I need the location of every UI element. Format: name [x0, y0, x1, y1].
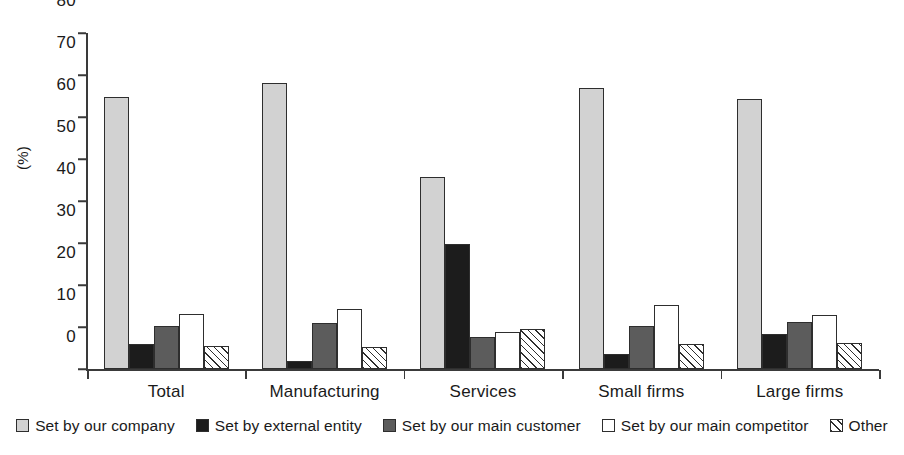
legend-label: Set by our company	[35, 418, 175, 434]
legend-swatch-icon	[16, 419, 29, 432]
bar-competitor	[337, 309, 362, 369]
legend-swatch-icon	[602, 419, 615, 432]
bar-external	[762, 334, 787, 369]
bar-company	[104, 97, 129, 369]
legend-swatch-icon	[196, 419, 209, 432]
bar-group	[721, 33, 879, 369]
legend-item-customer[interactable]: Set by our main customer	[383, 418, 581, 434]
legend-item-external[interactable]: Set by external entity	[196, 418, 362, 434]
bar-company	[262, 83, 287, 369]
bar-external	[604, 354, 629, 369]
bar-other	[837, 343, 862, 369]
bar-group-bars	[87, 33, 245, 369]
legend-label: Set by our main competitor	[621, 418, 809, 434]
bar-customer	[470, 337, 495, 369]
x-category-label: Total	[87, 382, 245, 402]
x-tick-mark	[404, 370, 406, 379]
bar-other	[362, 347, 387, 369]
x-tick-mark	[87, 370, 89, 379]
legend-swatch-icon	[830, 419, 843, 432]
y-tick-label: 0	[42, 328, 76, 345]
bar-company	[579, 88, 604, 369]
bar-external	[287, 361, 312, 369]
bar-customer	[154, 326, 179, 369]
plot-area	[87, 33, 879, 369]
bar-customer	[787, 322, 812, 369]
y-tick-label: 60	[42, 76, 76, 93]
y-tick-mark	[78, 158, 86, 160]
bar-group-bars	[245, 33, 403, 369]
bar-customer	[312, 323, 337, 369]
bar-other	[679, 344, 704, 369]
bar-external	[445, 244, 470, 369]
y-tick-label: 10	[42, 286, 76, 303]
bar-group	[562, 33, 720, 369]
bar-company	[737, 99, 762, 369]
y-tick-label: 70	[42, 34, 76, 51]
y-tick-label: 30	[42, 202, 76, 219]
bar-group-bars	[721, 33, 879, 369]
x-tick-mark	[245, 370, 247, 379]
y-tick-mark	[78, 368, 86, 370]
bar-competitor	[179, 314, 204, 369]
chart-legend: Set by our companySet by external entity…	[0, 418, 904, 434]
legend-label: Set by external entity	[215, 418, 362, 434]
x-category-label: Manufacturing	[245, 382, 403, 402]
bar-other	[520, 329, 545, 369]
bar-competitor	[495, 332, 520, 369]
bar-competitor	[812, 315, 837, 369]
legend-item-other[interactable]: Other	[830, 418, 888, 434]
y-tick-mark	[78, 242, 86, 244]
bar-competitor	[654, 305, 679, 369]
legend-label: Other	[849, 418, 888, 434]
bar-chart: (%) 01020304050607080 Set by our company…	[0, 0, 904, 455]
y-tick-label: 50	[42, 118, 76, 135]
x-axis-line	[86, 369, 879, 371]
y-tick-label: 20	[42, 244, 76, 261]
y-axis-tick-labels: 01020304050607080	[42, 0, 76, 455]
bar-group-bars	[562, 33, 720, 369]
bar-customer	[629, 326, 654, 369]
y-tick-mark	[78, 326, 86, 328]
y-tick-mark	[78, 32, 86, 34]
y-tick-mark	[78, 74, 86, 76]
bar-group	[87, 33, 245, 369]
x-category-label: Services	[404, 382, 562, 402]
bar-external	[129, 344, 154, 369]
y-tick-label: 40	[42, 160, 76, 177]
legend-label: Set by our main customer	[402, 418, 581, 434]
x-tick-mark	[721, 370, 723, 379]
bar-group-bars	[404, 33, 562, 369]
y-axis-title: (%)	[14, 146, 31, 170]
y-tick-label: 80	[42, 0, 76, 9]
bar-company	[420, 177, 445, 369]
legend-swatch-icon	[383, 419, 396, 432]
x-tick-mark	[562, 370, 564, 379]
x-category-label: Small firms	[562, 382, 720, 402]
y-tick-mark	[78, 284, 86, 286]
y-tick-mark	[78, 200, 86, 202]
bar-group	[245, 33, 403, 369]
x-tick-mark	[879, 370, 881, 379]
bar-group	[404, 33, 562, 369]
bar-other	[204, 346, 229, 369]
y-tick-mark	[78, 116, 86, 118]
legend-item-company[interactable]: Set by our company	[16, 418, 175, 434]
legend-item-competitor[interactable]: Set by our main competitor	[602, 418, 809, 434]
x-category-label: Large firms	[721, 382, 879, 402]
